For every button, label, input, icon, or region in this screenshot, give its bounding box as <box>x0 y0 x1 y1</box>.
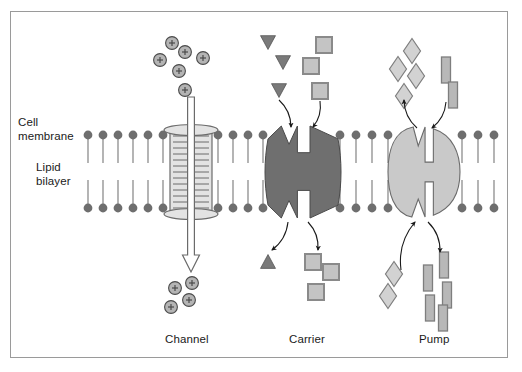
diagram-artwork <box>0 0 522 372</box>
bar-particle <box>443 282 452 308</box>
protein-channel <box>164 97 218 272</box>
lipid-head-lower <box>84 204 93 213</box>
label-carrier: Carrier <box>289 332 325 346</box>
flow-arrow-diamond-in-arrow <box>400 222 415 270</box>
particle-group-channel-ions-above <box>154 37 210 97</box>
protein-pump <box>388 127 460 217</box>
lipid-head-upper <box>458 131 467 140</box>
lipid-head-lower <box>384 204 393 213</box>
lipid-head-lower <box>144 204 153 213</box>
particle-group-pump-bars-above <box>442 57 458 108</box>
particle-group-carrier-triangles-above <box>261 36 291 98</box>
triangle-down-particle <box>276 56 291 70</box>
triangle-up-particle <box>261 255 276 269</box>
lipid-head-lower <box>229 204 238 213</box>
bar-particle <box>442 57 451 83</box>
lipid-head-lower <box>490 204 499 213</box>
membrane-segment-between-carrier-and-pump <box>336 131 393 213</box>
label-pump: Pump <box>419 332 449 346</box>
particle-group-carrier-squares-above <box>303 37 332 99</box>
lipid-head-lower <box>458 204 467 213</box>
bar-particle <box>424 265 433 291</box>
lipid-head-upper <box>114 131 123 140</box>
particle-group-pump-diamonds-above <box>390 39 425 109</box>
label-cell-membrane: Cell membrane <box>18 115 74 143</box>
lipid-head-upper <box>474 131 483 140</box>
lipid-head-upper <box>368 131 377 140</box>
lipid-head-lower <box>244 204 253 213</box>
label-lipid-bilayer: Lipid bilayer <box>36 160 71 188</box>
lipid-head-upper <box>384 131 393 140</box>
bar-particle <box>426 295 435 321</box>
square-particle <box>323 264 339 280</box>
lipid-head-upper <box>144 131 153 140</box>
lipid-head-upper <box>244 131 253 140</box>
lipid-bilayer-line-1: Lipid <box>36 161 61 173</box>
particle-group-pump-diamonds-below <box>380 262 403 309</box>
carrier-body <box>265 126 341 218</box>
triangle-down-particle <box>272 84 287 98</box>
square-particle <box>316 37 332 53</box>
lipid-head-upper <box>229 131 238 140</box>
flow-arrow-square-out-arrow <box>308 222 318 250</box>
lipid-head-lower <box>159 204 168 213</box>
bar-particle <box>439 305 448 331</box>
membrane-segment-left <box>84 131 168 213</box>
particle-group-carrier-triangle-below <box>261 255 276 269</box>
label-channel: Channel <box>165 332 209 346</box>
square-particle <box>312 83 328 99</box>
lipid-bilayer-line-2: bilayer <box>36 175 71 187</box>
membrane-segment-between-channel-and-carrier <box>214 131 268 213</box>
triangle-down-particle <box>261 36 276 50</box>
flow-arrow-bar-in-arrow <box>432 102 446 128</box>
flow-arrow-triangle-out-arrow <box>272 222 288 250</box>
lipid-head-upper <box>129 131 138 140</box>
diamond-particle <box>404 39 421 64</box>
particle-group-carrier-squares-below <box>305 254 339 300</box>
particle-group-pump-bars-below <box>424 252 452 331</box>
square-particle <box>303 58 319 74</box>
lipid-head-upper <box>490 131 499 140</box>
flow-arrow-triangle-in-arrow <box>279 100 291 127</box>
lipid-head-upper <box>352 131 361 140</box>
membrane-segment-right <box>458 131 499 213</box>
lipid-head-upper <box>99 131 108 140</box>
cell-membrane-line-1: Cell <box>18 116 38 128</box>
particle-group-channel-ions-below <box>165 277 199 314</box>
cell-membrane-line-2: membrane <box>18 130 74 142</box>
flow-arrow-bar-out-arrow <box>428 222 440 252</box>
lipid-head-lower <box>129 204 138 213</box>
square-particle <box>308 284 324 300</box>
protein-carrier <box>265 126 341 218</box>
diagram-stage: Cell membrane Lipid bilayer Channel Carr… <box>0 0 522 372</box>
lipid-head-upper <box>259 131 268 140</box>
lipid-head-lower <box>352 204 361 213</box>
pump-body <box>388 127 460 217</box>
lipid-head-lower <box>114 204 123 213</box>
lipid-head-lower <box>368 204 377 213</box>
bar-particle <box>449 82 458 108</box>
bar-particle <box>440 252 449 278</box>
square-particle <box>305 254 321 270</box>
lipid-head-lower <box>259 204 268 213</box>
lipid-head-upper <box>84 131 93 140</box>
diamond-particle <box>408 64 425 89</box>
diamond-particle <box>390 57 407 82</box>
lipid-head-lower <box>99 204 108 213</box>
lipid-head-lower <box>474 204 483 213</box>
flow-arrow-square-in-arrow <box>313 101 320 127</box>
